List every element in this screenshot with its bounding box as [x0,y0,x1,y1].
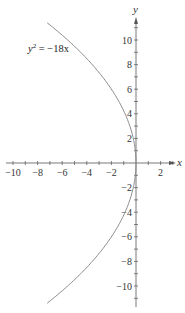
x-tick-label: −2 [106,167,117,178]
y-tick-label: 8 [127,59,132,70]
x-tick-label: −6 [57,167,68,178]
x-tick-label: −10 [5,167,21,178]
parabola-chart: −10−8−6−4−22 108642−2−4−6−8−10 x y y2 = … [0,0,185,313]
y-tick-label: 2 [127,133,132,144]
y-tick-label: −2 [121,182,132,193]
equation-rest: = −18x [36,43,70,54]
equation-label: y2 = −18x [27,42,70,54]
y-tick-label: 6 [127,84,132,95]
y-axis-label: y [132,3,138,15]
y-tick-label: 4 [127,108,132,119]
y-tick-label: −8 [121,256,132,267]
x-tick-label: 2 [158,167,163,178]
x-tick-labels: −10−8−6−4−22 [5,167,163,178]
y-tick-label: −6 [121,231,132,242]
y-tick-label: 10 [122,35,132,46]
y-arrow-icon [134,17,138,24]
x-tick-label: −4 [81,167,92,178]
x-arrow-icon [169,161,176,165]
y-tick-label: −10 [116,281,132,292]
x-tick-label: −8 [32,167,43,178]
x-axis-label: x [176,156,182,168]
